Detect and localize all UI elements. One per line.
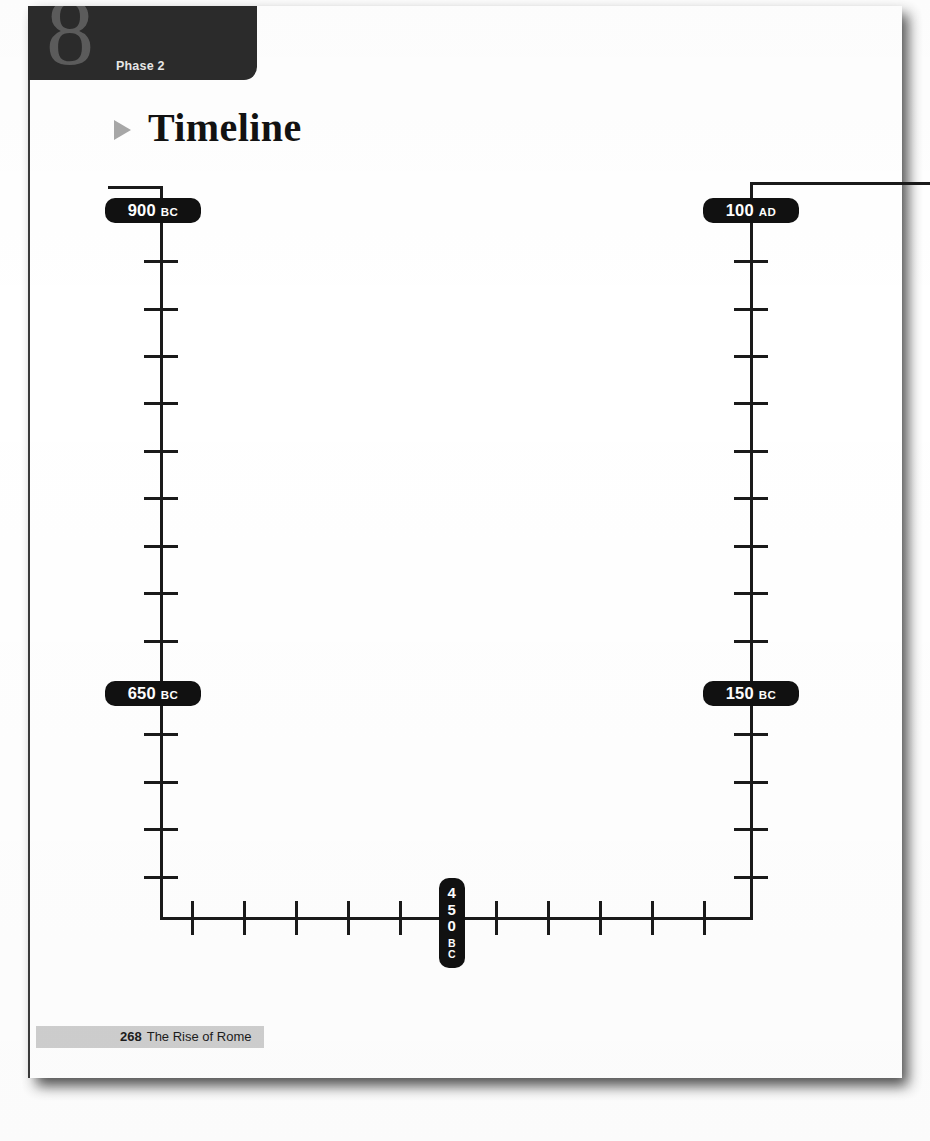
page-title: Timeline bbox=[114, 104, 302, 151]
phase-label: Phase 2 bbox=[116, 59, 165, 73]
triangle-right-icon bbox=[114, 120, 131, 140]
footer-caption: 268The Rise of Rome bbox=[120, 1029, 251, 1044]
footer-page-number: 268 bbox=[120, 1029, 142, 1044]
page-root: 8 Phase 2 Timeline 900BC650BC450BC150BC1… bbox=[0, 0, 930, 1141]
page-sheet bbox=[28, 6, 902, 1078]
page-title-text: Timeline bbox=[148, 104, 302, 151]
page-left-rule bbox=[28, 6, 30, 1078]
footer-book-title: The Rise of Rome bbox=[147, 1029, 252, 1044]
chapter-number: 8 bbox=[46, 6, 92, 80]
chapter-header-block: 8 Phase 2 bbox=[28, 6, 257, 80]
